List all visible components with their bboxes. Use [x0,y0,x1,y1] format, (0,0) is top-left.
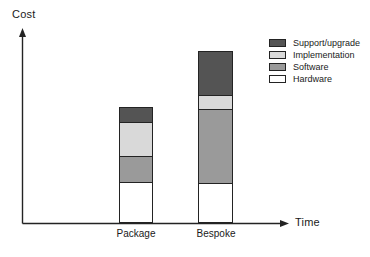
legend-item-software[interactable]: Software [269,62,360,72]
bar-segment-software[interactable] [198,109,233,184]
legend-item-support-upgrade[interactable]: Support/upgrade [269,38,360,48]
bar-segment-hardware[interactable] [198,183,233,223]
bar-bespoke[interactable] [198,51,233,223]
bar-segment-support-upgrade[interactable] [198,51,233,96]
legend-swatch-implementation [269,51,286,59]
bar-segment-implementation[interactable] [119,122,153,157]
bar-segment-hardware[interactable] [119,182,153,223]
x-axis [23,220,290,227]
legend-swatch-hardware [269,75,286,83]
stacked-bar-chart: Cost Time Package Bespoke Support/upgrad… [0,0,370,257]
legend-item-implementation[interactable]: Implementation [269,50,360,60]
y-axis-title: Cost [12,8,35,20]
legend-label-implementation: Implementation [293,50,355,60]
legend-label-hardware: Hardware [293,74,332,84]
bar-segment-software[interactable] [119,156,153,183]
legend-label-software: Software [293,62,329,72]
legend-swatch-software [269,63,286,71]
x-axis-title: Time [295,216,320,228]
chart-legend: Support/upgrade Implementation Software … [269,38,360,84]
bar-segment-support-upgrade[interactable] [119,107,153,123]
bar-package[interactable] [119,107,153,223]
y-axis [19,28,26,224]
bar-segment-implementation[interactable] [198,95,233,110]
x-tick-label-bespoke: Bespoke [191,228,241,239]
legend-item-hardware[interactable]: Hardware [269,74,360,84]
legend-swatch-support-upgrade [269,39,286,47]
legend-label-support-upgrade: Support/upgrade [293,38,360,48]
x-tick-label-package: Package [111,228,161,239]
